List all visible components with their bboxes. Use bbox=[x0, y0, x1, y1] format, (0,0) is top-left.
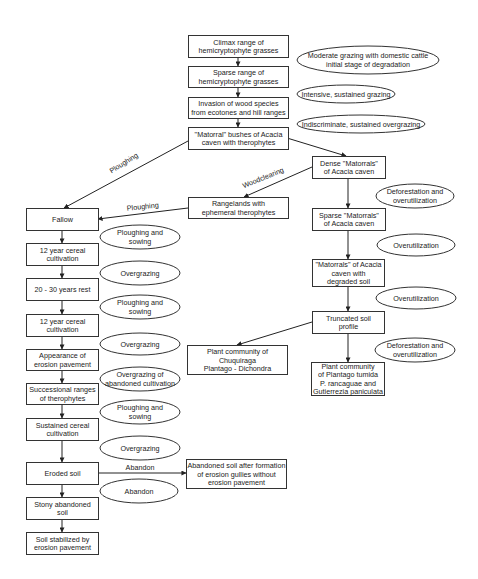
edge-label: Woodclearing bbox=[241, 165, 285, 190]
driver-ellipse-e2: Intensive, sustained grazing bbox=[297, 85, 395, 103]
driver-ellipse-e4: Deforestation andoverutilization bbox=[376, 184, 454, 208]
node-text-line: Plantago - Dichondra bbox=[204, 364, 272, 373]
process-box-n10: Plant community ofChuquiragaPlantago - D… bbox=[188, 346, 288, 375]
driver-ellipse-e5: Overutilization bbox=[377, 234, 455, 256]
node-text-line: Abandon bbox=[125, 487, 154, 496]
process-box-n8: "Matorrals" of Acaciacaven withdegraded … bbox=[313, 260, 385, 287]
driver-ellipse-e14: Overgrazing bbox=[100, 436, 180, 460]
process-box-n19: Eroded soil bbox=[27, 463, 99, 485]
process-box-n7: Sparse "Matorrals"of Acacia caven bbox=[313, 209, 386, 231]
node-text-line: sowing bbox=[129, 237, 151, 246]
node-text-line: Eroded soil bbox=[45, 469, 81, 478]
driver-ellipse-e10: Ploughing andsowing bbox=[100, 295, 180, 319]
node-text-line: Indiscriminate, sustained overgrazing bbox=[302, 120, 421, 129]
node-text-line: cultivation bbox=[47, 325, 79, 334]
driver-ellipse-e15: Abandon bbox=[100, 479, 178, 503]
process-box-n3: Invasion of wood speciesfrom ecotones an… bbox=[189, 98, 289, 119]
node-text-line: of Acacia caven bbox=[324, 167, 374, 176]
edge-label: Ploughing bbox=[126, 200, 159, 212]
node-text-line: Overutilization bbox=[393, 294, 439, 303]
node-text-line: Overgrazing bbox=[120, 340, 159, 349]
process-box-n9: Truncated soilprofile bbox=[313, 312, 385, 334]
node-text-line: hemicryptophyte grasses bbox=[199, 77, 279, 86]
process-box-n18: Sustained cerealcultivation bbox=[27, 419, 99, 441]
node-text-line: abandoned cultivation bbox=[105, 379, 175, 388]
process-box-n14: 20 - 30 years rest bbox=[27, 279, 99, 301]
node-text-line: Overgrazing bbox=[120, 269, 159, 278]
node-text-line: caven with therophytes bbox=[202, 138, 276, 147]
process-box-n5: Dense "Matorrals"of Acacia caven bbox=[313, 157, 386, 179]
node-text-line: profile bbox=[339, 322, 359, 331]
edge-n4-fallow bbox=[64, 141, 188, 208]
edge-label: Ploughing bbox=[108, 151, 140, 176]
driver-ellipse-e8: Ploughing andsowing bbox=[100, 225, 180, 249]
process-box-n1: Climax range ofhemicryptophyte grasses bbox=[189, 36, 289, 58]
node-text-line: erosion pavement bbox=[34, 543, 91, 552]
node-text-line: degraded soil bbox=[327, 277, 371, 286]
node-text-line: Overutilization bbox=[393, 241, 439, 250]
node-text-line: ephemeral therophytes bbox=[202, 208, 276, 217]
driver-ellipse-e1: Moderate grazing with domestic cattleini… bbox=[297, 46, 439, 74]
node-text-line: erosion pavement bbox=[208, 478, 265, 487]
process-box-n2: Sparse range ofhemicryptophyte grasses bbox=[189, 67, 289, 88]
node-text-line: from ecotones and hill ranges bbox=[191, 108, 286, 117]
driver-ellipse-e7: Deforestation andoverutilization bbox=[375, 338, 455, 362]
node-text-line: cultivation bbox=[47, 429, 79, 438]
node-text-line: of therophytes bbox=[40, 394, 86, 403]
node-text-line: of Acacia caven bbox=[324, 219, 374, 228]
edge-n4-n5 bbox=[287, 138, 346, 156]
node-text-line: overutilization bbox=[393, 196, 437, 205]
node-text-line: sowing bbox=[129, 307, 151, 316]
process-box-n17: Successional rangesof therophytes bbox=[27, 384, 99, 405]
process-box-n22: Soil stabilized byerosion pavement bbox=[27, 533, 99, 555]
node-text-line: cultivation bbox=[47, 254, 79, 263]
edge-label: Abandon bbox=[126, 463, 155, 472]
driver-ellipse-e6: Overutilization bbox=[376, 287, 456, 309]
edge-n9-n10 bbox=[237, 322, 312, 345]
driver-ellipse-e11: Overgrazing bbox=[100, 333, 180, 355]
process-boxes: Climax range ofhemicryptophyte grassesSp… bbox=[27, 36, 386, 555]
process-box-n6: Rangelands withephemeral therophytes bbox=[189, 198, 289, 219]
driver-ellipse-e9: Overgrazing bbox=[100, 261, 180, 285]
driver-ellipse-e12: Overgrazing ofabandoned cultivation bbox=[100, 367, 180, 391]
driver-ellipse-e3: Indiscriminate, sustained overgrazing bbox=[297, 115, 425, 133]
node-text-line: Fallow bbox=[52, 215, 74, 224]
node-text-line: Gutierrezia paniculata bbox=[313, 387, 383, 396]
process-box-n13: 12 year cerealcultivation bbox=[27, 244, 99, 266]
process-box-n20: Abandoned soil after formationof erosion… bbox=[187, 460, 287, 489]
process-box-n15: 12 year cerealcultivation bbox=[27, 315, 99, 337]
degradation-flow-diagram: Climax range ofhemicryptophyte grassesSp… bbox=[0, 0, 478, 579]
node-text-line: soil bbox=[57, 508, 68, 517]
node-text-line: sowing bbox=[129, 412, 151, 421]
process-box-n11: Plant communityof Plantago tumidaP. ranc… bbox=[312, 362, 385, 396]
node-text-line: overutilization bbox=[393, 350, 437, 359]
node-text-line: Intensive, sustained grazing bbox=[301, 90, 390, 99]
process-box-n21: Stony abandonedsoil bbox=[27, 498, 99, 520]
node-text-line: hemicryptophyte grasses bbox=[199, 46, 279, 55]
process-box-n4: "Matorral" bushes of Acaciacaven with th… bbox=[189, 128, 289, 150]
node-text-line: 20 - 30 years rest bbox=[35, 285, 91, 294]
node-text-line: Overgrazing bbox=[120, 444, 159, 453]
node-text-line: erosion pavement bbox=[34, 360, 91, 369]
node-text-line: initial stage of degradation bbox=[326, 60, 410, 69]
driver-ellipse-e13: Ploughing andsowing bbox=[100, 400, 180, 424]
process-box-n12: Fallow bbox=[27, 209, 99, 231]
process-box-n16: Appearance oferosion pavement bbox=[27, 350, 99, 371]
